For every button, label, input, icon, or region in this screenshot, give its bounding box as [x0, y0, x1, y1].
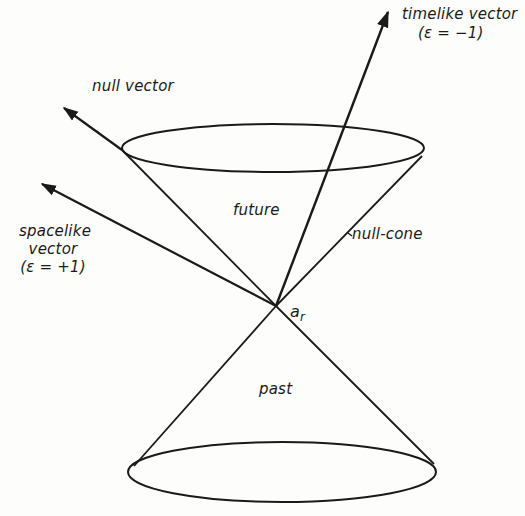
spacelike-epsilon-label: (ε = +1) [15, 259, 91, 276]
timelike-vector-label: timelike vector [402, 6, 518, 23]
null-vector-arrow [64, 108, 122, 150]
past-cone-right-edge [276, 306, 434, 464]
past-cone-rim [128, 442, 436, 502]
apex-event-label: ar [290, 303, 305, 326]
light-cone-diagram: timelike vector (ε = −1) null vector spa… [0, 0, 525, 516]
timelike-vector-arrow [276, 12, 388, 306]
future-cone-rim [122, 124, 424, 172]
timelike-epsilon-label: (ε = −1) [418, 25, 484, 42]
apex-subscript: r [300, 310, 305, 324]
null-vector-label: null vector [92, 78, 174, 95]
future-cone-left-edge [122, 150, 276, 306]
spacelike-vector-label-line2: vector [19, 241, 87, 258]
apex-symbol: a [290, 302, 300, 321]
spacelike-vector-label-line1: spacelike [19, 223, 87, 240]
null-cone-label: null-cone [352, 226, 423, 243]
future-region-label: future [233, 202, 280, 219]
past-region-label: past [259, 381, 292, 398]
